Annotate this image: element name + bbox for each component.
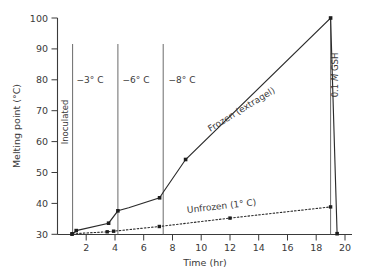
unfrozen-curve-label: Unfrozen (1° C)	[186, 197, 256, 215]
y-tick-label: 80	[36, 74, 48, 85]
vertical-dividers	[73, 19, 331, 235]
x-tick-label: 18	[310, 242, 322, 253]
y-axis-title: Melting point (°C)	[11, 84, 22, 168]
y-tick-label: 70	[36, 105, 48, 116]
y-tick-label: 40	[36, 198, 48, 209]
frozen-curve-label: Frozen (extragel)	[206, 85, 277, 134]
x-tick-label: 2	[83, 242, 89, 253]
x-tick-label: 16	[281, 242, 293, 253]
x-tick-label: 12	[224, 242, 236, 253]
melting-point-chart: 100 90 80 70 60 50 40 30 2 4 6 8	[0, 0, 372, 269]
y-tick-labels: 100 90 80 70 60 50 40 30	[30, 13, 48, 240]
y-tick-label: 100	[30, 13, 48, 24]
x-tick-labels: 2 4 6 8 10 12 14 16 18 20	[83, 242, 351, 253]
x-tick-label: 6	[141, 242, 147, 253]
y-tick-label: 90	[36, 43, 48, 54]
x-axis-title: Time (hr)	[182, 257, 227, 268]
x-axis	[58, 235, 353, 241]
y-tick-label: 50	[36, 167, 48, 178]
inoculated-label: Inoculated	[60, 100, 70, 145]
y-axis	[52, 18, 58, 235]
zone-label-minus8: −8° C	[169, 75, 196, 85]
series-frozen-line	[73, 18, 338, 234]
y-tick-label: 60	[36, 136, 48, 147]
x-tick-label: 4	[112, 242, 118, 253]
x-tick-label: 10	[195, 242, 207, 253]
x-tick-label: 14	[253, 242, 265, 253]
x-tick-label: 20	[339, 242, 351, 253]
x-tick-label: 8	[169, 242, 175, 253]
zone-label-minus6: −6° C	[123, 75, 150, 85]
gsh-prefix: 0.1	[330, 81, 340, 97]
zone-label-minus3: −3° C	[77, 75, 104, 85]
chart-svg: 100 90 80 70 60 50 40 30 2 4 6 8	[0, 0, 372, 269]
y-tick-label: 30	[36, 229, 48, 240]
